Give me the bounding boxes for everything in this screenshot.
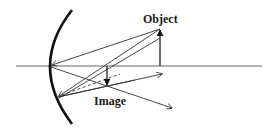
dashed-construction-line [62,74,120,95]
concave-mirror [50,10,72,124]
incident-ray-3 [59,38,160,98]
incident-ray-1 [52,29,160,65]
ray-diagram: Object Image [0,0,274,132]
object-label: Object [143,12,178,26]
image-label: Image [94,94,127,108]
